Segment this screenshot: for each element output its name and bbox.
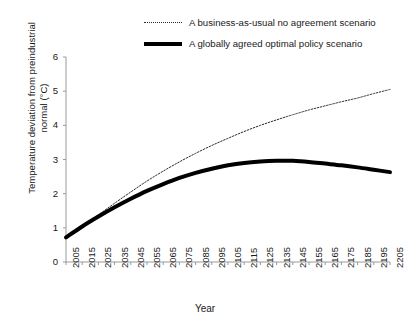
x-axis-tick-label: 2125 [264,247,275,268]
y-axis-tick-label: 0 [42,256,58,267]
plot-area: 0123456200520152025203520452055206520752… [0,0,410,323]
x-axis-tick-label: 2075 [183,247,194,268]
x-axis-tick-label: 2195 [378,247,389,268]
x-axis-tick-label: 2105 [232,247,243,268]
x-axis-tick-label: 2115 [248,248,259,268]
x-axis-tick-label: 2145 [297,247,308,268]
x-axis-tick-label: 2155 [313,247,324,268]
x-axis-tick-label: 2185 [362,247,373,268]
x-axis-tick-label: 2085 [200,247,211,268]
x-axis-tick-label: 2005 [70,247,81,268]
x-axis-tick-label: 2165 [329,247,340,268]
x-axis-tick-label: 2025 [102,247,113,268]
x-axis-tick-label: 2015 [86,247,97,268]
x-axis-tick-label: 2055 [151,247,162,268]
chart-figure: A business-as-usual no agreement scenari… [0,0,410,323]
y-axis-tick-label: 5 [42,85,58,96]
y-axis-tick-label: 1 [42,222,58,233]
plot-canvas [0,0,410,323]
series-line [66,161,390,238]
x-axis-tick-label: 2095 [216,247,227,268]
x-axis-tick-label: 2035 [119,247,130,268]
y-axis-tick-label: 6 [42,51,58,62]
y-axis-tick-label: 2 [42,188,58,199]
x-axis-tick-label: 2205 [394,247,405,268]
y-axis-tick-label: 3 [42,154,58,165]
x-axis-tick-label: 2065 [167,247,178,268]
x-axis-tick-label: 2175 [345,247,356,268]
x-axis-tick-label: 2135 [281,247,292,268]
x-axis-tick-label: 2045 [135,247,146,268]
y-axis-tick-label: 4 [42,119,58,130]
